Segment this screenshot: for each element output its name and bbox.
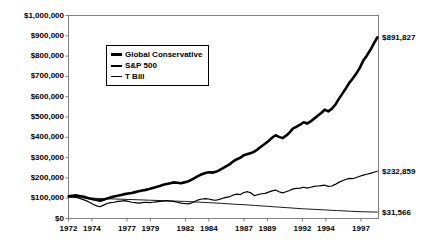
x-tick-label: 1994: [306, 224, 346, 233]
series-end-label: $891,827: [382, 33, 415, 42]
legend-swatch-icon: [111, 65, 122, 67]
x-tick-label: 1974: [72, 224, 112, 233]
x-tick-label: 1984: [189, 224, 229, 233]
x-tick-label: 1979: [130, 224, 170, 233]
series-end-label: $31,566: [382, 208, 411, 217]
line-chart: $0$100,000$200,000$300,000$400,000$500,0…: [0, 0, 443, 246]
legend-item-label: S&P 500: [125, 61, 157, 70]
legend-swatch-icon: [111, 53, 122, 56]
series-line: [69, 171, 378, 207]
x-tick-label: 1989: [247, 224, 287, 233]
legend-item: Global Conservative: [111, 49, 202, 60]
legend-swatch-icon: [111, 76, 122, 77]
x-tick-label: 1997: [341, 224, 381, 233]
plot-area: [0, 0, 443, 246]
legend-item: T Bill: [111, 71, 202, 82]
legend-item-label: T Bill: [125, 72, 145, 81]
legend: Global ConservativeS&P 500T Bill: [106, 45, 209, 86]
series-line: [69, 197, 378, 212]
legend-item: S&P 500: [111, 60, 202, 71]
series-end-label: $232,859: [382, 167, 415, 176]
legend-item-label: Global Conservative: [125, 50, 202, 59]
